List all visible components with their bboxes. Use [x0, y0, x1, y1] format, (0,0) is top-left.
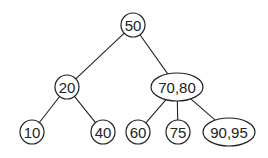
node-label: 40	[95, 124, 112, 141]
edge-n50-n20	[76, 33, 125, 79]
nodes: 502070,801040607590,95	[20, 13, 255, 146]
tree-node: 75	[166, 120, 190, 144]
edge-n7080-n60	[146, 100, 166, 123]
node-label: 10	[24, 124, 41, 141]
tree-node: 60	[126, 120, 150, 144]
node-label: 70,80	[158, 79, 196, 96]
node-label: 90,95	[210, 124, 248, 141]
edge-n50-n7080	[140, 35, 168, 74]
edge-n20-n10	[39, 96, 59, 122]
node-label: 60	[130, 124, 147, 141]
tree-node: 20	[55, 75, 79, 99]
tree-diagram: 502070,801040607590,95	[0, 0, 268, 158]
tree-node: 50	[121, 13, 145, 37]
edge-n7080-n9095	[191, 99, 216, 120]
node-label: 50	[125, 17, 142, 34]
tree-node: 70,80	[151, 73, 203, 101]
node-label: 75	[170, 124, 187, 141]
tree-node: 40	[91, 120, 115, 144]
edge-n20-n40	[74, 96, 95, 122]
tree-node: 90,95	[203, 118, 255, 146]
node-label: 20	[59, 79, 76, 96]
tree-node: 10	[20, 120, 44, 144]
